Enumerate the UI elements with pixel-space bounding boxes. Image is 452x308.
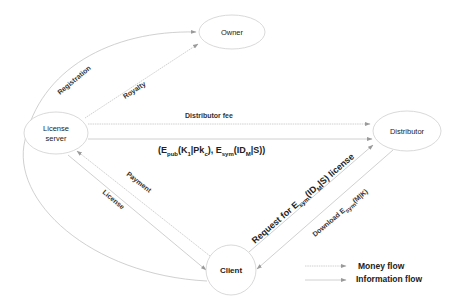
edge-payment: Payment xyxy=(77,151,210,256)
legend: Money flow Information flow xyxy=(305,261,422,284)
license-label: License xyxy=(101,188,126,210)
owner-label: Owner xyxy=(221,28,244,37)
legend-money-flow: Money flow xyxy=(305,261,405,271)
legend-money-flow-label: Money flow xyxy=(358,261,405,271)
legend-information-flow-label: Information flow xyxy=(356,274,422,284)
edge-encrypted-keys: (Epub(K1|Pkc), Esym(IDM|S)) xyxy=(88,139,372,157)
node-owner: Owner xyxy=(199,15,265,49)
license-server-label-line1: License xyxy=(43,124,69,133)
license-flow-diagram: Registration Royalty Distributor fee (Ep… xyxy=(0,0,452,308)
node-distributor: Distributor xyxy=(373,111,441,151)
edge-download: Download Esym(M|K) xyxy=(257,150,393,269)
node-client: Client xyxy=(206,245,256,295)
legend-information-flow: Information flow xyxy=(305,274,422,284)
request-label: Request for Esym(IDM|S) license xyxy=(250,151,357,246)
edge-royalty: Royalty xyxy=(85,44,198,118)
edge-distributor-fee: Distributor fee xyxy=(88,112,370,124)
registration-label: Registration xyxy=(56,64,92,96)
royalty-label: Royalty xyxy=(122,80,148,101)
encrypted-keys-label: (Epub(K1|Pkc), Esym(IDM|S)) xyxy=(158,145,265,157)
distributor-fee-label: Distributor fee xyxy=(185,112,233,119)
license-server-label-line2: server xyxy=(46,134,67,143)
client-label: Client xyxy=(220,266,243,275)
payment-label: Payment xyxy=(125,170,153,195)
distributor-label: Distributor xyxy=(390,127,425,136)
edge-registration: Registration xyxy=(23,32,207,281)
node-license-server: License server xyxy=(24,112,88,154)
edge-license: License xyxy=(68,155,206,270)
